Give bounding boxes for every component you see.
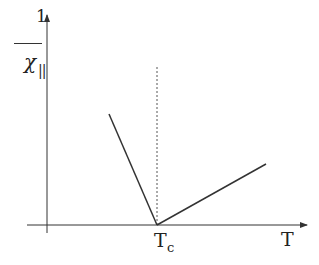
curve-above-tc <box>157 164 266 225</box>
x-axis-label: T <box>281 228 294 250</box>
y-axis-label-denominator: χ <box>24 50 36 74</box>
y-axis-label-numerator: 1 <box>36 6 47 26</box>
curve-below-tc <box>109 114 157 225</box>
diagram-canvas <box>0 0 319 265</box>
critical-temperature-subscript: c <box>167 240 174 255</box>
critical-temperature-label: T <box>154 229 167 251</box>
y-axis-label-subscript: || <box>38 62 45 78</box>
y-axis-label-fraction-bar <box>14 43 42 44</box>
